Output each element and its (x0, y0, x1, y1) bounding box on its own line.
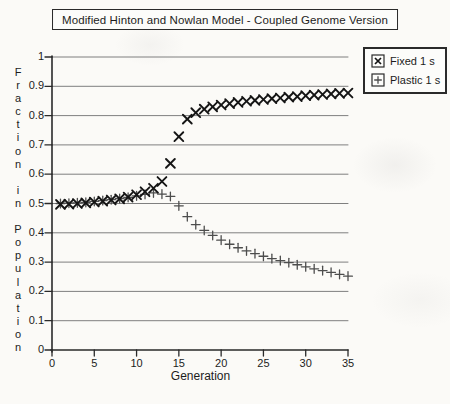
legend-label-fixed: Fixed 1 s (390, 55, 435, 67)
x-tick-label: 15 (167, 357, 191, 369)
plus-marker-icon (371, 73, 385, 87)
legend-item-fixed: Fixed 1 s (371, 54, 441, 68)
legend-label-plastic: Plastic 1 s (390, 74, 440, 86)
chart-page: Modified Hinton and Nowlan Model - Coupl… (0, 0, 450, 404)
y-tick-label: 0.5 (14, 197, 44, 209)
x-tick-label: 10 (125, 357, 149, 369)
y-tick-label: 1 (14, 50, 44, 62)
legend: Fixed 1 s Plastic 1 s (363, 47, 447, 94)
y-tick-label: 0.4 (14, 226, 44, 238)
y-tick-label: 0.7 (14, 138, 44, 150)
y-tick-label: 0.8 (14, 109, 44, 121)
legend-item-plastic: Plastic 1 s (371, 73, 441, 87)
x-tick-label: 30 (294, 357, 318, 369)
x-tick-label: 0 (40, 357, 64, 369)
x-tick-label: 5 (82, 357, 106, 369)
y-tick-label: 0 (14, 343, 44, 355)
x-tick-label: 35 (336, 357, 360, 369)
y-tick-label: 0.1 (14, 314, 44, 326)
y-tick-label: 0.9 (14, 79, 44, 91)
y-tick-label: 0.2 (14, 284, 44, 296)
x-axis-title: Generation (148, 369, 253, 383)
y-tick-label: 0.3 (14, 255, 44, 267)
x-tick-label: 20 (209, 357, 233, 369)
x-tick-label: 25 (251, 357, 275, 369)
y-tick-label: 0.6 (14, 167, 44, 179)
x-marker-icon (371, 54, 385, 68)
